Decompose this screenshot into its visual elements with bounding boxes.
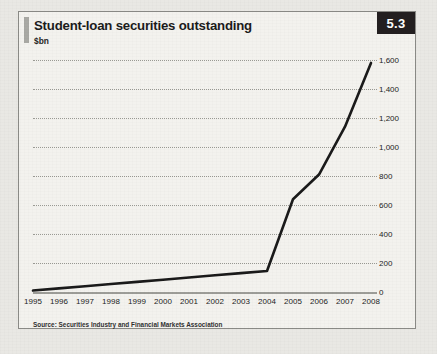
y-axis-tick-label: 800 — [379, 172, 392, 181]
series-line-chart — [33, 60, 371, 292]
plot-area: 02004006008001,0001,2001,4001,600 199519… — [19, 56, 415, 328]
y-axis-tick-label: 0 — [379, 288, 383, 297]
y-axis-labels: 02004006008001,0001,2001,4001,600 — [371, 60, 413, 292]
y-axis-tick-label: 1,200 — [379, 114, 399, 123]
y-axis-tick-label: 1,400 — [379, 85, 399, 94]
title-accent-bar — [24, 17, 29, 43]
x-axis-tick-label: 1995 — [24, 297, 42, 306]
gridline — [33, 292, 377, 294]
chart-header: Student-loan securities outstanding $bn … — [19, 12, 415, 56]
y-axis-tick-label: 400 — [379, 230, 392, 239]
x-axis-labels: 1995199619971998199920002001200220032004… — [33, 297, 371, 311]
x-axis-tick-label: 2000 — [154, 297, 172, 306]
x-axis-tick-label: 2004 — [258, 297, 276, 306]
figure-number-badge: 5.3 — [377, 12, 415, 34]
x-axis-tick-label: 1996 — [50, 297, 68, 306]
y-axis-tick-label: 1,000 — [379, 143, 399, 152]
x-axis-tick-label: 2006 — [310, 297, 328, 306]
x-axis-tick-label: 1997 — [76, 297, 94, 306]
x-axis-tick-label: 2001 — [180, 297, 198, 306]
y-axis-tick-label: 600 — [379, 201, 392, 210]
page-title: Student-loan securities outstanding — [34, 18, 252, 33]
x-axis-tick-label: 2007 — [336, 297, 354, 306]
x-axis-tick-label: 1998 — [102, 297, 120, 306]
x-axis-tick-label: 2008 — [362, 297, 380, 306]
x-axis-tick-label: 2005 — [284, 297, 302, 306]
chart-panel: Student-loan securities outstanding $bn … — [18, 11, 416, 329]
y-axis-tick-label: 200 — [379, 259, 392, 268]
series-line — [33, 63, 371, 291]
chart-subtitle: $bn — [34, 36, 49, 46]
y-axis-tick-label: 1,600 — [379, 56, 399, 65]
x-axis-tick-label: 2003 — [232, 297, 250, 306]
x-axis-tick-label: 2002 — [206, 297, 224, 306]
source-note: Source: Securities Industry and Financia… — [33, 321, 222, 328]
x-axis-tick-label: 1999 — [128, 297, 146, 306]
plot-canvas — [33, 60, 371, 292]
